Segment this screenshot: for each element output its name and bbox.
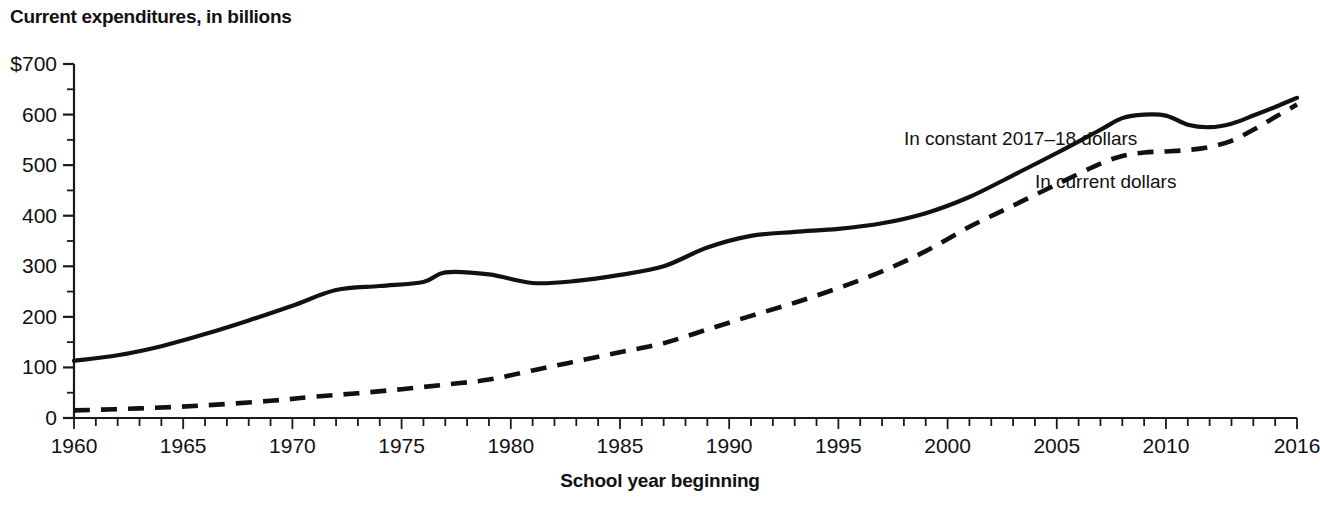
x-tick-label: 1965 bbox=[160, 434, 207, 457]
x-tick-label: 2016 bbox=[1274, 434, 1320, 457]
y-tick-label: 0 bbox=[45, 406, 57, 429]
x-tick-label: 1970 bbox=[269, 434, 316, 457]
y-tick-label: 400 bbox=[22, 204, 57, 227]
axes bbox=[63, 64, 1297, 429]
y-tick-label: 200 bbox=[22, 305, 57, 328]
series-label-current-dollars: In current dollars bbox=[1035, 171, 1177, 192]
series-label-constant-dollars: In constant 2017–18 dollars bbox=[904, 128, 1137, 149]
x-tick-label: 1975 bbox=[378, 434, 425, 457]
expenditures-line-chart: Current expenditures, in billions $70060… bbox=[0, 0, 1320, 523]
y-tick-label: 300 bbox=[22, 254, 57, 277]
page-margin bbox=[0, 500, 1320, 523]
x-axis-title: School year beginning bbox=[0, 470, 1320, 492]
x-tick-label: 1985 bbox=[597, 434, 644, 457]
x-tick-label: 2000 bbox=[924, 434, 971, 457]
y-tick-label: 500 bbox=[22, 153, 57, 176]
y-tick-label: 600 bbox=[22, 103, 57, 126]
tick-labels: $700600500400300200100019601965197019751… bbox=[10, 52, 1320, 457]
x-tick-label: 1960 bbox=[51, 434, 98, 457]
x-tick-label: 1990 bbox=[706, 434, 753, 457]
y-tick-label: $700 bbox=[10, 52, 57, 75]
y-tick-label: 100 bbox=[22, 355, 57, 378]
x-tick-label: 1995 bbox=[815, 434, 862, 457]
x-tick-label: 1980 bbox=[487, 434, 534, 457]
x-tick-label: 2010 bbox=[1143, 434, 1190, 457]
x-tick-label: 2005 bbox=[1033, 434, 1080, 457]
plot-area: $700600500400300200100019601965197019751… bbox=[0, 0, 1320, 470]
